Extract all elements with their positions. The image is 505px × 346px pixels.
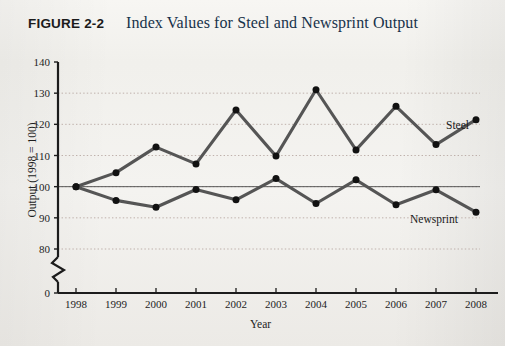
x-tick-label-2002: 2002 bbox=[225, 298, 247, 310]
y-tick-label-110: 110 bbox=[34, 150, 51, 162]
data-point-newsprint-2002 bbox=[233, 196, 240, 203]
data-point-newsprint-2008 bbox=[473, 209, 480, 216]
y-tick-label-0: 0 bbox=[45, 287, 51, 299]
series-line-newsprint bbox=[76, 179, 476, 213]
x-tick-label-2001: 2001 bbox=[185, 298, 207, 310]
y-tick-label-100: 100 bbox=[34, 181, 51, 193]
data-point-newsprint-2007 bbox=[433, 186, 440, 193]
data-point-steel-2008 bbox=[473, 116, 480, 123]
x-tick-label-2005: 2005 bbox=[345, 298, 368, 310]
data-point-steel-2004 bbox=[313, 86, 320, 93]
data-point-steel-2001 bbox=[193, 160, 200, 167]
x-tick-label-2003: 2003 bbox=[265, 298, 288, 310]
data-point-newsprint-2004 bbox=[313, 200, 320, 207]
data-point-newsprint-1998 bbox=[73, 183, 80, 190]
x-tick-label-2000: 2000 bbox=[145, 298, 168, 310]
data-point-newsprint-2006 bbox=[393, 201, 400, 208]
figure-title: Index Values for Steel and Newsprint Out… bbox=[126, 14, 418, 32]
x-tick-label-1998: 1998 bbox=[65, 298, 88, 310]
y-tick-label-90: 90 bbox=[39, 212, 51, 224]
data-point-newsprint-2000 bbox=[153, 204, 160, 211]
x-tick-label-2008: 2008 bbox=[465, 298, 488, 310]
figure-header: FIGURE 2-2 Index Values for Steel and Ne… bbox=[0, 8, 505, 42]
x-tick-label-2006: 2006 bbox=[385, 298, 408, 310]
data-point-steel-2005 bbox=[353, 146, 360, 153]
figure-number: FIGURE 2-2 bbox=[28, 16, 104, 31]
x-tick-label-2007: 2007 bbox=[425, 298, 448, 310]
y-tick-label-140: 140 bbox=[34, 56, 51, 68]
x-tick-label-1999: 1999 bbox=[105, 298, 128, 310]
series-line-steel bbox=[76, 90, 476, 187]
data-point-steel-2003 bbox=[273, 153, 280, 160]
data-point-steel-2000 bbox=[153, 144, 160, 151]
line-chart: 0809010011012013014019981999200020012002… bbox=[0, 46, 505, 346]
y-tick-label-120: 120 bbox=[34, 118, 51, 130]
data-point-steel-1999 bbox=[113, 169, 120, 176]
data-point-newsprint-1999 bbox=[113, 197, 120, 204]
data-point-steel-2007 bbox=[433, 141, 440, 148]
chart-area: Output (1998 = 100) Year 080901001101201… bbox=[0, 46, 505, 346]
data-point-newsprint-2005 bbox=[353, 176, 360, 183]
data-point-steel-2002 bbox=[233, 106, 240, 113]
data-point-newsprint-2003 bbox=[273, 175, 280, 182]
y-tick-label-130: 130 bbox=[34, 87, 51, 99]
series-label-steel: Steel bbox=[446, 119, 469, 131]
x-tick-label-2004: 2004 bbox=[305, 298, 328, 310]
data-point-steel-2006 bbox=[393, 103, 400, 110]
series-label-newsprint: Newsprint bbox=[410, 213, 459, 226]
y-tick-label-80: 80 bbox=[39, 243, 51, 255]
y-axis-break-symbol bbox=[52, 257, 64, 282]
data-point-newsprint-2001 bbox=[193, 186, 200, 193]
